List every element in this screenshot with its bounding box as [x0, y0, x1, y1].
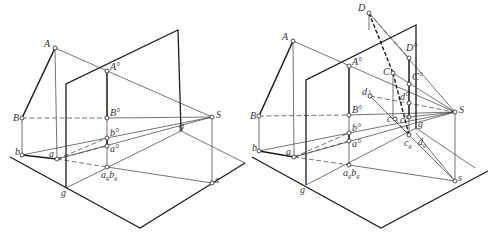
label-C0: C°: [412, 71, 423, 82]
left-diagram: ABbaA°B°b°a°agbgSsgg: [10, 30, 245, 228]
point-A: [291, 39, 295, 43]
point-C: [391, 71, 395, 75]
label-S: S: [216, 109, 221, 120]
label-A: A: [43, 38, 51, 49]
point-S: [210, 115, 214, 119]
construction-line: [416, 128, 475, 168]
label-B: B: [250, 110, 256, 121]
label-dg: dg: [418, 136, 427, 148]
label-D0: D°: [405, 42, 417, 53]
construction-line: [55, 48, 57, 159]
point-C0: [407, 82, 411, 86]
picture-plane: [66, 30, 181, 188]
point-D: [367, 11, 371, 15]
hidden-line: [57, 146, 107, 159]
label-b0: b°: [110, 127, 119, 138]
right-diagram: DD°CC°dd°cc°cgdgABbaA°B°b°a°agbgSsgg: [250, 2, 488, 228]
hidden-line: [259, 115, 349, 116]
construction-line: [409, 135, 455, 181]
point-c: [393, 117, 397, 121]
point-d: [368, 94, 372, 98]
point-b0: [347, 131, 351, 135]
hidden-line: [294, 157, 349, 165]
construction-line: [293, 41, 294, 157]
label-c0: c°: [400, 114, 408, 125]
label-g1: g: [179, 120, 184, 131]
hidden-line: [294, 133, 349, 157]
object-line: [259, 41, 293, 116]
point-B0: [347, 113, 351, 117]
label-A: A: [281, 31, 289, 42]
ground-line: [66, 131, 181, 188]
label-D: D: [357, 2, 366, 13]
point-D0: [407, 56, 411, 60]
label-A0: A°: [351, 56, 362, 67]
label-agbg: agbg: [343, 167, 360, 179]
point-b: [257, 149, 261, 153]
label-B0: B°: [110, 107, 120, 118]
ground-plane-edge: [10, 157, 245, 228]
construction-line: [181, 131, 245, 163]
label-a: a: [49, 148, 54, 159]
point-b0: [105, 136, 109, 140]
construction-line: [349, 165, 455, 181]
label-cg: cg: [404, 137, 412, 149]
label-a0: a°: [110, 143, 119, 154]
label-g1: g: [418, 118, 423, 129]
perspective-construction-figure: ABbaA°B°b°a°agbgSsgg DD°CC°dd°cc°cgdgABb…: [0, 0, 490, 237]
construction-line: [55, 48, 212, 117]
point-A0: [347, 64, 351, 68]
construction-line: [293, 41, 455, 112]
ground-plane-edge: [252, 157, 488, 228]
label-s: s: [215, 174, 219, 185]
label-A0: A°: [109, 61, 120, 72]
point-a0: [347, 139, 351, 143]
label-g2: g: [300, 184, 305, 195]
point-s: [453, 179, 457, 183]
point-B: [20, 116, 24, 120]
construction-line: [107, 167, 212, 183]
hidden-object-line: [369, 13, 393, 73]
point-b: [20, 153, 24, 157]
point-B0: [105, 116, 109, 120]
label-c: c: [387, 113, 392, 124]
label-C: C: [383, 66, 390, 77]
point-A: [53, 46, 57, 50]
point-A0: [105, 69, 109, 73]
label-d0: d°: [400, 91, 409, 102]
hidden-line: [369, 13, 409, 58]
point-a: [292, 155, 296, 159]
label-B0: B°: [352, 104, 362, 115]
label-a0: a°: [352, 138, 361, 149]
label-B: B: [13, 112, 19, 123]
label-agbg: agbg: [101, 169, 118, 181]
construction-line: [107, 117, 212, 118]
ground-line: [306, 128, 416, 185]
label-b0: b°: [352, 122, 361, 133]
label-b: b: [252, 142, 257, 153]
point-S: [453, 110, 457, 114]
point-a: [55, 157, 59, 161]
point-s: [210, 181, 214, 185]
object-line: [22, 48, 55, 118]
label-S: S: [459, 104, 464, 115]
label-d: d: [362, 86, 368, 97]
label-g2: g: [61, 187, 66, 198]
hidden-line: [57, 138, 107, 159]
label-s: s: [458, 172, 462, 183]
hidden-line: [57, 159, 107, 167]
label-a: a: [286, 146, 291, 157]
point-a0: [105, 144, 109, 148]
point-B: [257, 114, 261, 118]
label-b: b: [15, 146, 20, 157]
